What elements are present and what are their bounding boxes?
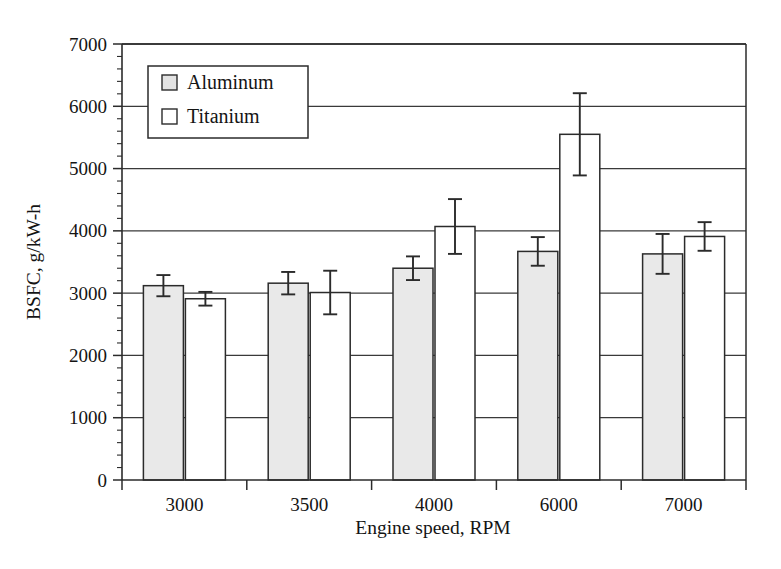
legend-swatch-aluminum-icon (162, 75, 177, 90)
bar-titanium-6000 (560, 134, 600, 480)
bar-aluminum-4000 (393, 268, 433, 480)
y-tick-label-2000: 2000 (69, 345, 107, 366)
bar-titanium-3000 (185, 299, 225, 480)
y-tick-label-7000: 7000 (69, 34, 107, 55)
y-tick-label-5000: 5000 (69, 158, 107, 179)
y-axis-title: BSFC, g/kW-h (23, 204, 44, 320)
x-tick-label-7000: 7000 (665, 494, 703, 515)
bar-aluminum-7000 (643, 254, 683, 480)
bar-aluminum-3500 (268, 283, 308, 480)
legend-label-aluminum: Aluminum (187, 71, 274, 93)
x-tick-label-4000: 4000 (415, 494, 453, 515)
chart-legend: AluminumTitanium (148, 66, 308, 138)
bar-aluminum-6000 (518, 251, 558, 480)
bar-titanium-4000 (435, 226, 475, 480)
bar-aluminum-3000 (143, 286, 183, 480)
y-tick-label-4000: 4000 (69, 220, 107, 241)
x-axis-title: Engine speed, RPM (355, 517, 510, 538)
y-tick-label-0: 0 (98, 470, 108, 491)
chart-canvas: 01000200030004000500060007000 3000350040… (0, 0, 781, 569)
x-tick-label-3500: 3500 (290, 494, 328, 515)
legend-swatch-titanium-icon (162, 109, 177, 124)
bar-titanium-7000 (685, 236, 725, 480)
y-tick-label-6000: 6000 (69, 96, 107, 117)
y-tick-label-3000: 3000 (69, 283, 107, 304)
x-tick-label-6000: 6000 (540, 494, 578, 515)
x-tick-label-3000: 3000 (165, 494, 203, 515)
y-tick-label-1000: 1000 (69, 407, 107, 428)
legend-label-titanium: Titanium (187, 105, 260, 127)
bsfc-bar-chart-figure: 01000200030004000500060007000 3000350040… (0, 0, 781, 569)
bar-titanium-3500 (310, 293, 350, 480)
